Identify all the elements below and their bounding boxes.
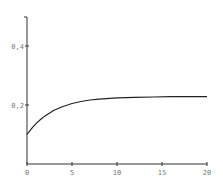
- y-tick-label: 0,2: [11, 102, 24, 110]
- ticks: [25, 46, 207, 166]
- tick-labels: 051015200,20,4: [11, 43, 211, 178]
- data-line: [27, 97, 207, 135]
- y-tick-label: 0,4: [11, 43, 24, 51]
- x-tick-label: 0: [25, 169, 29, 177]
- x-tick-label: 10: [113, 169, 121, 177]
- axes: [24, 17, 207, 164]
- x-tick-label: 20: [203, 169, 211, 177]
- x-tick-label: 5: [70, 169, 74, 177]
- x-tick-label: 15: [158, 169, 166, 177]
- line-chart: 051015200,20,4: [0, 0, 223, 184]
